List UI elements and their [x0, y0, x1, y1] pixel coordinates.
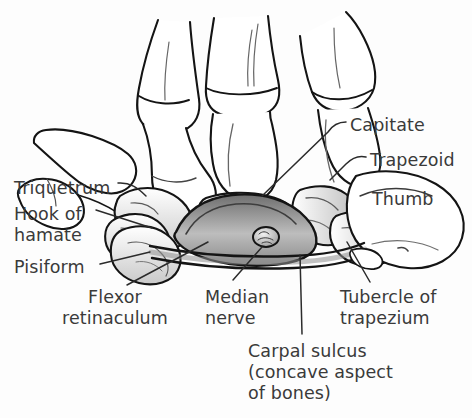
- label-carpal-sulcus-line1: Carpal sulcus: [248, 341, 393, 362]
- anatomy-figure: Triquetrum Hook of hamate Pisiform Flexo…: [0, 0, 472, 418]
- label-tubercle-of-trapezium-line1: Tubercle of: [340, 287, 437, 308]
- metacarpal-4: [300, 12, 380, 186]
- label-capitate-text: Capitate: [350, 115, 425, 136]
- label-median-nerve-line2: nerve: [205, 308, 269, 329]
- label-carpal-sulcus: Carpal sulcus (concave aspect of bones): [248, 341, 393, 404]
- label-tubercle-of-trapezium-line2: trapezium: [340, 308, 437, 329]
- label-thumb-text: Thumb: [372, 189, 434, 210]
- label-thumb: Thumb: [372, 189, 434, 210]
- label-triquetrum: Triquetrum: [14, 178, 110, 199]
- label-carpal-sulcus-line2: (concave aspect: [248, 362, 393, 383]
- label-flexor-retinaculum: Flexor retinaculum: [62, 287, 168, 329]
- metacarpal-3: [206, 16, 279, 201]
- label-median-nerve-line1: Median: [205, 287, 269, 308]
- label-carpal-sulcus-line3: of bones): [248, 383, 393, 404]
- label-median-nerve: Median nerve: [205, 287, 269, 329]
- label-hook-of-hamate-line2: hamate: [14, 225, 82, 246]
- label-tubercle-of-trapezium: Tubercle of trapezium: [340, 287, 437, 329]
- label-hook-of-hamate-line1: Hook of: [14, 204, 82, 225]
- label-trapezoid-text: Trapezoid: [370, 150, 455, 171]
- label-triquetrum-text: Triquetrum: [14, 178, 110, 199]
- label-flexor-retinaculum-line2: retinaculum: [62, 308, 168, 329]
- label-flexor-retinaculum-line1: Flexor: [62, 287, 168, 308]
- label-trapezoid: Trapezoid: [370, 150, 455, 171]
- label-capitate: Capitate: [350, 115, 425, 136]
- label-hook-of-hamate: Hook of hamate: [14, 204, 82, 246]
- label-pisiform: Pisiform: [14, 257, 85, 278]
- label-pisiform-text: Pisiform: [14, 257, 85, 278]
- median-nerve-section: [253, 227, 279, 247]
